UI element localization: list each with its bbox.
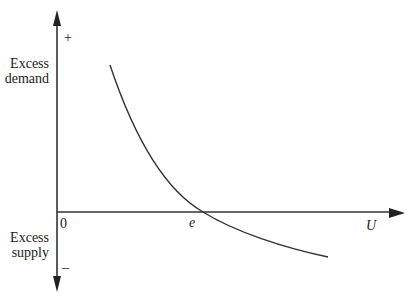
origin-label: 0: [60, 216, 67, 231]
x-axis-u-label: U: [366, 218, 377, 233]
y-axis-up-arrow-icon: [53, 10, 61, 26]
excess-supply-label-line2: supply: [12, 245, 49, 260]
minus-sign-label: –: [61, 260, 70, 275]
excess-demand-label-line2: demand: [5, 71, 49, 86]
excess-supply-label-line1: Excess: [10, 230, 49, 245]
plus-sign-label: +: [64, 30, 72, 45]
excess-demand-curve: [110, 65, 328, 257]
diagram-canvas: + Excess demand 0 e U Excess supply –: [0, 0, 414, 300]
excess-demand-label-line1: Excess: [10, 56, 49, 71]
intersection-e-label: e: [189, 215, 195, 230]
y-axis-down-arrow-icon: [53, 276, 61, 292]
x-axis-right-arrow-icon: [389, 208, 405, 218]
